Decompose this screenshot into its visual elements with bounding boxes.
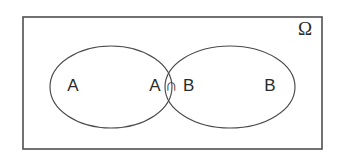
venn-diagram-figure: Ω A A ∩ B B: [0, 0, 338, 162]
venn-diagram-canvas: Ω A A ∩ B B: [0, 0, 338, 162]
intersection-label: A ∩ B: [149, 76, 194, 95]
set-b-label: B: [264, 76, 276, 95]
set-a-label: A: [67, 76, 79, 95]
universal-set-label: Ω: [298, 18, 312, 39]
